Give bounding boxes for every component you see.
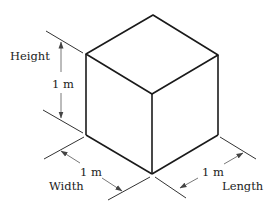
width-arrow-left <box>61 151 80 163</box>
width-left-extension <box>44 137 84 159</box>
cube-diagram: 1 m Height 1 m Width 1 m Length <box>0 0 272 209</box>
length-label: Length <box>222 179 264 193</box>
length-arrow-right <box>224 153 243 164</box>
width-dimension: 1 m Width <box>49 151 122 193</box>
cube <box>86 15 218 174</box>
height-label: Height <box>10 49 50 63</box>
height-top-extension <box>46 31 83 53</box>
height-dimension: 1 m Height <box>10 42 74 118</box>
width-label: Width <box>49 179 84 193</box>
length-value: 1 m <box>202 165 224 179</box>
cube-top-face <box>86 15 218 94</box>
width-value: 1 m <box>80 165 102 179</box>
width-arrow-right <box>102 178 122 191</box>
height-bottom-extension <box>43 110 83 133</box>
length-arrow-left <box>180 178 198 188</box>
height-value: 1 m <box>52 77 74 91</box>
front-left-extension <box>108 177 150 200</box>
extension-lines <box>43 31 256 200</box>
length-dimension: 1 m Length <box>180 153 264 193</box>
